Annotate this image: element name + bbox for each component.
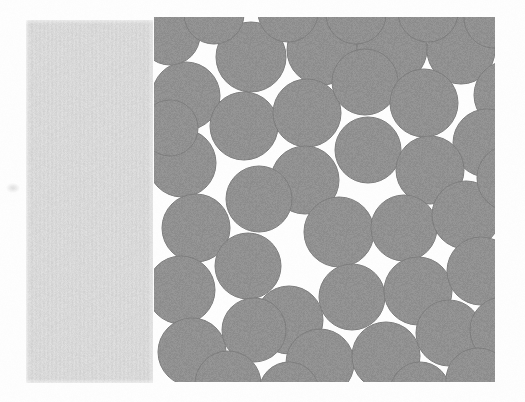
- disk: [335, 117, 401, 183]
- disk: [226, 166, 292, 232]
- scan-smudge-artifact: [6, 183, 20, 193]
- disk: [215, 233, 281, 299]
- disk-group: [154, 17, 495, 382]
- disk: [154, 256, 215, 324]
- disk: [273, 79, 341, 147]
- slab-soft-edge: [26, 20, 153, 383]
- disk: [319, 264, 385, 330]
- disk-packing-svg: [154, 17, 495, 382]
- disk: [390, 69, 458, 137]
- disk: [332, 49, 398, 115]
- uniform-gray-slab: [26, 20, 153, 383]
- figure-canvas: [0, 0, 525, 402]
- disk-packing-region: [154, 17, 495, 382]
- disk: [371, 195, 437, 261]
- disk: [210, 92, 278, 160]
- disk: [304, 197, 374, 267]
